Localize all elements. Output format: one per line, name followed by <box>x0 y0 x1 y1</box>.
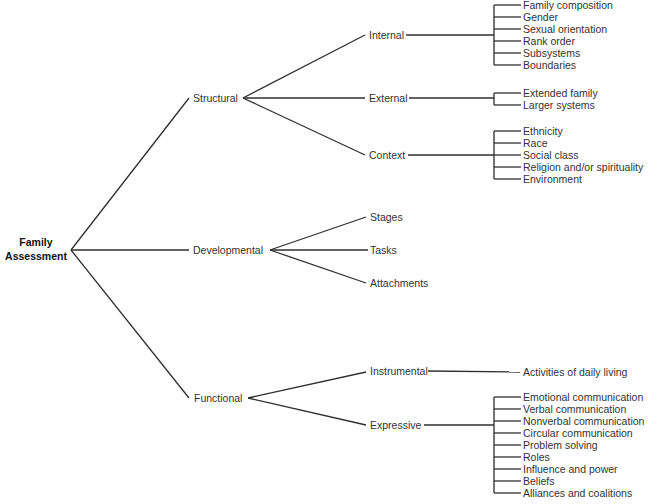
leaf-nonverbal-communication: Nonverbal communication <box>523 415 644 427</box>
leaf-subsystems: Subsystems <box>523 47 580 59</box>
node-context: Context <box>369 149 405 161</box>
leaf-verbal-communication: Verbal communication <box>523 403 626 415</box>
leaf-beliefs: Beliefs <box>523 475 555 487</box>
leaf-problem-solving: Problem solving <box>523 439 598 451</box>
leaf-larger-systems: Larger systems <box>523 99 595 111</box>
root-label-line2: Assessment <box>2 249 70 263</box>
leaf-alliances-coalitions: Alliances and coalitions <box>523 487 632 499</box>
leaf-ethnicity: Ethnicity <box>523 125 563 137</box>
leaf-family-composition: Family composition <box>523 0 613 11</box>
node-external: External <box>369 92 408 104</box>
leaf-attachments: Attachments <box>370 277 428 289</box>
leaf-social-class: Social class <box>523 149 578 161</box>
leaf-circular-communication: Circular communication <box>523 427 633 439</box>
leaf-emotional-communication: Emotional communication <box>523 391 643 403</box>
node-developmental: Developmental <box>193 244 263 256</box>
leaf-environment: Environment <box>523 173 582 185</box>
root-label-line1: Family <box>2 235 70 249</box>
leaf-stages: Stages <box>370 211 403 223</box>
node-internal: Internal <box>369 29 404 41</box>
leaf-gender: Gender <box>523 11 558 23</box>
root-node: Family Assessment <box>2 235 70 263</box>
node-structural: Structural <box>193 92 238 104</box>
leaf-influence-power: Influence and power <box>523 463 618 475</box>
leaf-activities-daily-living: Activities of daily living <box>523 366 627 378</box>
leaf-race: Race <box>523 137 548 149</box>
leaf-extended-family: Extended family <box>523 87 598 99</box>
node-instrumental: Instrumental <box>370 365 428 377</box>
leaf-sexual-orientation: Sexual orientation <box>523 23 607 35</box>
leaf-roles: Roles <box>523 451 550 463</box>
node-expressive: Expressive <box>370 419 421 431</box>
leaf-rank-order: Rank order <box>523 35 575 47</box>
leaf-religion-spirituality: Religion and/or spirituality <box>523 161 643 173</box>
leaf-tasks: Tasks <box>370 244 397 256</box>
node-functional: Functional <box>194 392 242 404</box>
leaf-boundaries: Boundaries <box>523 59 576 71</box>
